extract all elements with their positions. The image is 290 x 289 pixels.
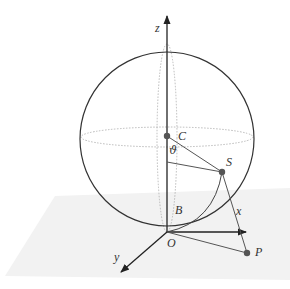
label-y: y xyxy=(113,250,120,264)
point-s xyxy=(219,169,225,175)
sphere-projection-diagram: z C ϑ S B x O y P xyxy=(0,0,290,289)
label-p: P xyxy=(254,245,263,259)
label-x: x xyxy=(235,204,242,218)
label-b: B xyxy=(175,203,183,217)
label-o: O xyxy=(167,236,176,250)
ground-plane xyxy=(5,188,290,280)
label-z: z xyxy=(154,21,160,35)
label-c: C xyxy=(178,129,187,143)
label-s: S xyxy=(226,155,232,169)
point-c xyxy=(164,133,170,139)
label-angle: ϑ xyxy=(169,144,177,157)
point-p xyxy=(244,250,250,256)
